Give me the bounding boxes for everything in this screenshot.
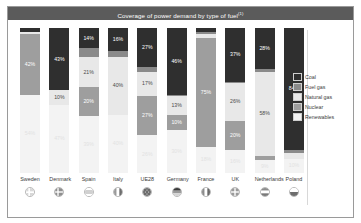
legend-item: Renewables xyxy=(293,112,347,122)
flag-icon-spain xyxy=(84,187,94,197)
legend-item-label: Nuclear xyxy=(305,104,323,110)
bar-segment-value-label: 21% xyxy=(83,70,93,75)
legend-item: Natural gas xyxy=(293,92,347,102)
bar-segment: 18% xyxy=(196,147,216,173)
flag-icon-france xyxy=(201,187,211,197)
flag-icon-poland xyxy=(289,187,299,197)
bar-column: 37%26%20%16% xyxy=(225,28,245,173)
x-axis-country-label: UE28 xyxy=(137,176,157,182)
flag-cell xyxy=(79,187,99,197)
bar-segment: 27% xyxy=(137,96,157,135)
x-axis-country-label: Sweden xyxy=(20,176,40,182)
bar-segment-value-label: 54% xyxy=(25,131,35,136)
bar-segment xyxy=(79,48,99,57)
bar-segment: 14% xyxy=(79,28,99,48)
bar-segment-value-label: 10% xyxy=(54,95,64,100)
x-axis-country-label: UK xyxy=(225,176,245,182)
x-axis-country-label: Germany xyxy=(167,176,187,182)
bar-segment-value-label: 16% xyxy=(113,37,123,42)
bar-segment: 39% xyxy=(79,116,99,173)
bar-column: 16%40%40% xyxy=(108,28,128,173)
bar-segment-value-label: 9% xyxy=(261,164,269,169)
legend-item-label: Renewables xyxy=(305,114,334,120)
bar-segment: 37% xyxy=(225,28,245,82)
bar-segment: 28% xyxy=(255,28,275,69)
bar-segment: 20% xyxy=(225,121,245,150)
bar-segment-value-label: 26% xyxy=(230,99,240,104)
bar-segment-value-label: 43% xyxy=(54,57,64,62)
x-axis-country-label: Italy xyxy=(108,176,128,182)
bar-segment: 27% xyxy=(137,28,157,67)
chart-legend: CoalFuel gasNatural gasNuclearRenewables xyxy=(293,72,347,122)
bar-segment-value-label: 39% xyxy=(83,142,93,147)
bar-segment-value-label: 20% xyxy=(83,99,93,104)
bar-segment-value-label: 10% xyxy=(289,163,299,168)
x-axis-country-label: Spain xyxy=(79,176,99,182)
flag-icon-denmark xyxy=(54,187,64,197)
bar-segment: 10% xyxy=(284,159,304,174)
bar-segment-value-label: 47% xyxy=(54,136,64,141)
x-axis-country-label: Netherlands xyxy=(255,176,275,182)
flag-cell xyxy=(284,187,304,197)
bar-segment: 75% xyxy=(196,38,216,147)
flag-cell xyxy=(20,187,40,197)
bar-segment: 26% xyxy=(137,135,157,173)
bar-column: 43%10%47% xyxy=(49,28,69,173)
bar-column: 27%17%27%26% xyxy=(137,28,157,173)
bar-segment-value-label: 40% xyxy=(113,83,123,88)
bar-segment: 9% xyxy=(255,160,275,173)
legend-swatch-nuclear-icon xyxy=(293,103,302,111)
bar-segment: 16% xyxy=(108,28,128,51)
bar-column: 14%21%20%39% xyxy=(79,28,99,173)
bar-segment-value-label: 28% xyxy=(259,46,269,51)
flag-icon-uk xyxy=(230,187,240,197)
flag-cell xyxy=(167,187,187,197)
bar-column: 46%13%10%30% xyxy=(167,28,187,173)
flag-cell xyxy=(108,187,128,197)
legend-item: Coal xyxy=(293,72,347,82)
flag-cell xyxy=(49,187,69,197)
bar-column: 42%54% xyxy=(20,28,40,173)
bar-segment-value-label: 46% xyxy=(171,59,181,64)
bar-segment-value-label: 26% xyxy=(142,152,152,157)
bar-segment-value-label: 16% xyxy=(230,159,240,164)
bar-segment-value-label: 14% xyxy=(83,36,93,41)
bar-segment: 21% xyxy=(79,57,99,87)
bar-segment-value-label: 18% xyxy=(201,157,211,162)
bar-segment-value-label: 30% xyxy=(171,149,181,154)
bar-segment: 40% xyxy=(108,115,128,173)
bar-segment: 10% xyxy=(167,115,187,130)
x-axis-country-label: France xyxy=(196,176,216,182)
bar-segment-value-label: 58% xyxy=(259,111,269,116)
bar-segment-value-label: 27% xyxy=(142,113,152,118)
bar-segment: 47% xyxy=(49,105,69,173)
x-axis-country-label: Poland xyxy=(284,176,304,182)
bar-segment-value-label: 20% xyxy=(230,133,240,138)
bar-segment: 46% xyxy=(167,28,187,95)
x-axis-country-label: Denmark xyxy=(49,176,69,182)
bar-segment-value-label: 17% xyxy=(142,81,152,86)
legend-item: Nuclear xyxy=(293,102,347,112)
legend-item: Fuel gas xyxy=(293,82,347,92)
flag-icon-eu xyxy=(142,187,152,197)
bar-segment-value-label: 75% xyxy=(201,90,211,95)
flag-icon-italy xyxy=(113,187,123,197)
flag-cell xyxy=(137,187,157,197)
bar-segment-value-label: 27% xyxy=(142,45,152,50)
legend-swatch-coal-icon xyxy=(293,73,302,81)
bar-segment: 43% xyxy=(49,28,69,90)
legend-item-label: Coal xyxy=(305,74,316,80)
bar-column: 75%18% xyxy=(196,28,216,173)
chart-title-footnote-marker: (1) xyxy=(238,11,243,16)
bar-segment: 10% xyxy=(49,90,69,105)
bar-segment: 54% xyxy=(20,95,40,173)
bar-segment: 42% xyxy=(20,34,40,95)
flag-icon-netherlands xyxy=(260,187,270,197)
bar-segment-value-label: 42% xyxy=(25,62,35,67)
bar-segment-value-label: 37% xyxy=(230,52,240,57)
x-axis-country-labels: SwedenDenmarkSpainItalyUE28GermanyFrance… xyxy=(20,176,304,182)
bar-segment: 16% xyxy=(225,150,245,173)
legend-swatch-renewables-icon xyxy=(293,113,302,121)
bar-segment-value-label: 13% xyxy=(171,103,181,108)
bar-segment: 13% xyxy=(167,96,187,115)
